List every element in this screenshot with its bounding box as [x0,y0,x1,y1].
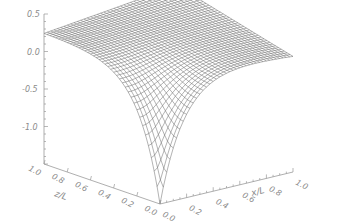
depth-axis-title: z/L [52,188,68,202]
depth-tick-label: 0.0 [143,204,158,218]
mesh-line [146,48,279,135]
tick-mark [114,184,115,188]
depth-tick-label: 0.6 [73,180,88,194]
value-tick-label: -1.0 [22,123,38,132]
depth-axis-ticks: 1.00.80.60.40.20.0 [27,160,161,218]
depth-tick-label: 1.0 [27,164,42,178]
depth-tick-label: 0.4 [97,188,112,202]
mesh-line [99,19,232,59]
surface-mesh [44,0,293,204]
mesh-line [111,10,227,74]
surface-plot: 0.50.0-0.5-1.0 1.00.80.60.40.20.0 0.00.2… [0,0,352,224]
mesh-line [128,37,261,92]
mesh-line [64,0,197,41]
depth-tick-label: 0.2 [120,196,135,210]
depth-tick-label: 0.8 [50,172,65,186]
value-tick-label: -0.5 [22,85,38,94]
tick-mark [137,192,138,196]
mesh-line [114,8,230,71]
x-axis-title: x/L [249,185,265,198]
tick-mark [67,168,68,172]
mesh-line [157,55,290,187]
mesh-line [160,56,293,204]
value-tick-label: 0.5 [27,10,40,19]
value-tick-label: 0.0 [27,48,40,57]
x-tick-label: 0.2 [188,203,203,217]
x-tick-label: 0.4 [214,197,229,211]
x-tick-label: 1.0 [294,178,309,192]
x-tick-label: 0.8 [267,184,282,198]
tick-mark [90,176,91,180]
x-axis-ticks: 0.00.20.40.60.81.0 [160,168,310,224]
x-tick-label: 0.0 [161,210,176,224]
